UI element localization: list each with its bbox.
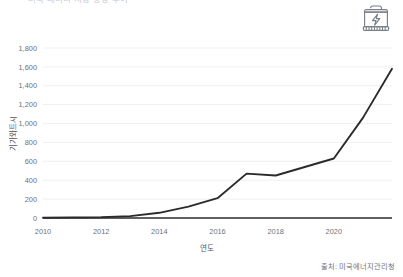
y-tick-label: 1,400	[19, 81, 38, 90]
x-tick-label: 2012	[93, 227, 109, 236]
y-tick-label: 800	[25, 138, 37, 147]
x-tick-label: 2014	[151, 227, 167, 236]
x-tick-label: 2020	[326, 227, 342, 236]
x-axis-tick-labels: 201020122014201620182020	[35, 227, 342, 236]
x-tick-label: 2016	[209, 227, 225, 236]
gridlines	[43, 48, 392, 199]
y-tick-label: 1,200	[19, 100, 38, 109]
x-axis-title: 연도	[200, 244, 214, 253]
data-series-line	[43, 69, 392, 218]
y-tick-label: 600	[25, 157, 37, 166]
y-tick-label: 1,600	[19, 63, 38, 72]
y-tick-label: 0	[33, 214, 37, 223]
y-tick-label: 1,800	[19, 44, 38, 53]
y-axis-tick-labels: 02004006008001,0001,2001,4001,6001,800	[19, 44, 38, 223]
y-axis-title: 기가와트시	[8, 116, 18, 151]
x-tick-label: 2018	[267, 227, 283, 236]
source-note: 출처: 미국에너지관리청	[321, 261, 395, 271]
line-chart-plot: 02004006008001,0001,2001,4001,6001,800 2…	[0, 0, 403, 277]
x-tick-label: 2010	[35, 227, 51, 236]
chart-figure: 미국 배터리 저장 용량 추이 0	[0, 0, 403, 277]
y-tick-label: 400	[25, 176, 37, 185]
y-tick-label: 1,000	[19, 119, 38, 128]
y-tick-label: 200	[25, 195, 37, 204]
